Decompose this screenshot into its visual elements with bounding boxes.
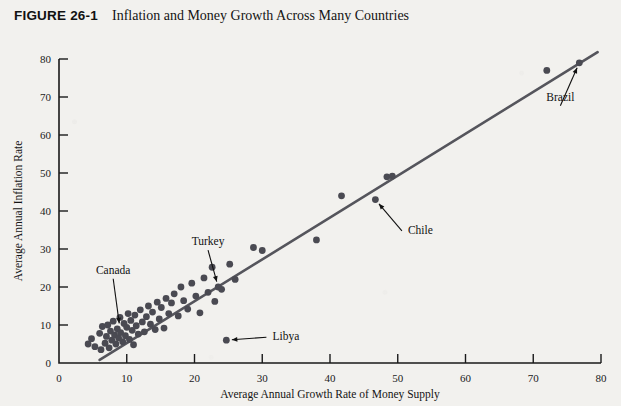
scatter-point	[259, 247, 266, 254]
scatter-point	[543, 67, 550, 74]
x-tick-label: 80	[596, 372, 608, 384]
scatter-point	[113, 341, 120, 348]
x-axis-title: Average Annual Growth Rate of Money Supp…	[220, 388, 440, 401]
y-tick-label: 40	[40, 205, 52, 217]
scatter-point	[96, 330, 103, 337]
trend-line	[100, 52, 598, 360]
x-tick-label: 0	[56, 372, 62, 384]
axes	[59, 59, 601, 363]
x-tick-label: 50	[392, 372, 404, 384]
scatter-point	[130, 341, 137, 348]
scatter-point	[141, 328, 148, 335]
scatter-point	[92, 343, 99, 350]
scatter-point	[232, 276, 239, 283]
scatter-point	[135, 331, 142, 338]
scatter-point	[165, 310, 172, 317]
scatter-point	[250, 244, 257, 251]
x-tick-label: 10	[121, 372, 133, 384]
axis-ticks	[59, 59, 601, 363]
scatter-point	[156, 316, 163, 323]
annotation-arrowhead-libya	[232, 337, 238, 342]
scatter-point	[178, 284, 185, 291]
scatter-point	[576, 59, 583, 66]
scatter-point	[131, 312, 138, 319]
x-tick-label: 20	[189, 372, 201, 384]
annotation-label-turkey: Turkey	[192, 235, 225, 248]
y-axis-title: Average Annual Inflation Rate	[12, 141, 25, 282]
y-tick-label: 80	[40, 53, 52, 65]
y-tick-label: 0	[46, 357, 52, 369]
scatter-point	[223, 337, 230, 344]
scatter-point	[163, 295, 170, 302]
scatter-point	[106, 344, 113, 351]
scatter-point	[98, 346, 105, 353]
y-tick-label: 20	[40, 281, 52, 293]
scatter-point	[133, 322, 140, 329]
scatter-point	[180, 297, 187, 304]
x-tick-label: 60	[460, 372, 472, 384]
y-tick-label: 70	[40, 91, 52, 103]
scatter-point	[158, 304, 165, 311]
annotation-label-canada: Canada	[96, 264, 130, 276]
scatter-point	[201, 274, 208, 281]
scatter-point	[313, 236, 320, 243]
scatter-plot: 0102030405060708001020304050607080 Canad…	[0, 0, 621, 406]
scatter-point	[137, 306, 144, 313]
scatter-point	[161, 325, 168, 332]
scatter-point	[147, 321, 154, 328]
y-tick-label: 10	[40, 319, 52, 331]
annotation-label-brazil: Brazil	[546, 91, 574, 103]
scatter-point	[338, 192, 345, 199]
scatter-point	[168, 300, 175, 307]
scatter-point	[188, 280, 195, 287]
scatter-point	[125, 310, 132, 317]
scatter-point	[205, 289, 212, 296]
scatter-point	[110, 318, 117, 325]
y-tick-label: 30	[40, 243, 52, 255]
scatter-point	[171, 290, 178, 297]
scatter-point	[184, 306, 191, 313]
scatter-point	[226, 261, 233, 268]
scatter-point	[143, 313, 150, 320]
scatter-point	[119, 338, 126, 345]
scatter-point	[88, 335, 95, 342]
x-tick-label: 70	[528, 372, 540, 384]
annotation-label-libya: Libya	[272, 330, 299, 343]
scatter-point	[197, 309, 204, 316]
data-points	[85, 59, 583, 353]
y-tick-label: 50	[40, 167, 52, 179]
axis-frame	[59, 59, 601, 363]
scatter-point	[211, 298, 218, 305]
y-tick-label: 60	[40, 129, 52, 141]
regression-line	[100, 52, 598, 360]
scatter-point	[372, 196, 379, 203]
scatter-point	[152, 326, 159, 333]
scatter-point	[149, 309, 156, 316]
x-tick-label: 40	[325, 372, 337, 384]
scatter-point	[192, 293, 199, 300]
annotation-label-chile: Chile	[408, 224, 433, 236]
scatter-point	[145, 303, 152, 310]
x-tick-label: 30	[257, 372, 269, 384]
annotation-arrow-canada	[113, 279, 119, 324]
axis-titles: Average Annual Growth Rate of Money Supp…	[12, 141, 440, 401]
scatter-point	[389, 173, 396, 180]
scatter-point	[175, 312, 182, 319]
scatter-point	[218, 286, 225, 293]
figure-container: FIGURE 26-1 Inflation and Money Growth A…	[0, 0, 621, 406]
